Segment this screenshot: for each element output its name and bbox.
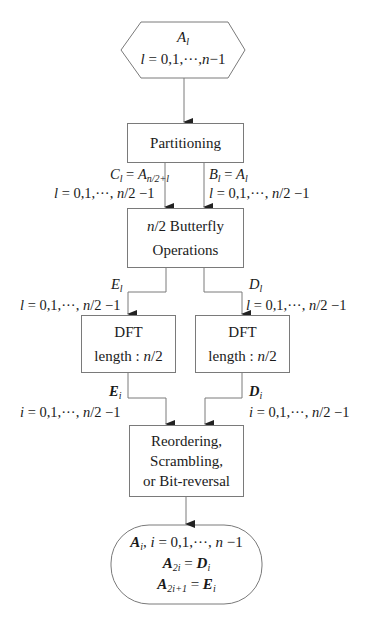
edge-e-label: El — [111, 275, 123, 293]
edge-di-range: i = 0,1,···, n/2 −1 — [249, 403, 350, 421]
dft-left-length: length : n/2 — [94, 344, 162, 368]
edge-c-range: l = 0,1,···, n/2 −1 — [54, 184, 155, 202]
dft-left-title: DFT — [114, 320, 142, 344]
arrow-d — [204, 268, 242, 314]
edge-ei-range: i = 0,1,···, n/2 −1 — [20, 403, 121, 421]
butterfly-line2: Operations — [153, 238, 219, 262]
dft-right-length: length : n/2 — [208, 344, 276, 368]
edge-b-label: Bl = Al — [209, 165, 248, 183]
butterfly-box: n/2 Butterfly Operations — [127, 208, 244, 268]
dft-left-box: DFT length : n/2 — [81, 315, 176, 373]
output-line3: A2i+1 = Ei — [111, 574, 262, 595]
edge-ei-label: Ei — [109, 382, 121, 400]
output-line2: A2i = Di — [111, 553, 262, 574]
dft-right-box: DFT length : n/2 — [195, 315, 290, 373]
output-node-text: Ai, i = 0,1,···, n −1 A2i = Di A2i+1 = E… — [111, 532, 262, 595]
partitioning-label: Partitioning — [150, 133, 221, 154]
output-line1: Ai, i = 0,1,···, n −1 — [111, 532, 262, 553]
partitioning-box: Partitioning — [127, 123, 244, 163]
edge-di-label: Di — [249, 382, 262, 400]
edge-d-label: Dl — [249, 275, 262, 293]
dft-right-title: DFT — [228, 320, 256, 344]
reorder-line2: Scrambling, — [150, 451, 223, 471]
edge-c-label: Cl = An/2+l — [110, 165, 169, 183]
reorder-box: Reordering, Scrambling, or Bit-reversal — [129, 425, 244, 497]
edge-e-range: l = 0,1,···, n/2 −1 — [20, 296, 121, 314]
arrow-e — [128, 268, 166, 314]
arrow-ei — [128, 373, 166, 424]
input-node-text: Al l = 0,1,···,n−1 — [121, 26, 245, 70]
edge-d-range: l = 0,1,···, n/2 −1 — [246, 296, 347, 314]
reorder-line3: or Bit-reversal — [143, 471, 230, 491]
edge-b-range: l = 0,1,···, n/2 −1 — [209, 184, 310, 202]
arrow-di — [205, 373, 242, 424]
reorder-line1: Reordering, — [151, 431, 222, 451]
butterfly-line1: n/2 Butterfly — [147, 214, 224, 238]
